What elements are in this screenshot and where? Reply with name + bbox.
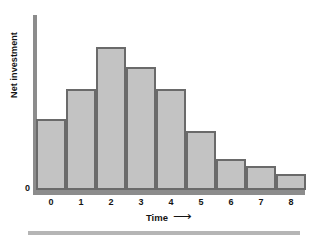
- bar-series-group: [36, 0, 306, 190]
- x-tick-label-3: 3: [126, 197, 156, 207]
- bar-2: [96, 47, 126, 190]
- bar-0: [36, 119, 66, 190]
- bar-5: [186, 131, 216, 190]
- x-tick-label-1: 1: [66, 197, 96, 207]
- x-tick-label-8: 8: [276, 197, 306, 207]
- bar-3: [126, 67, 156, 190]
- net-investment-bar-chart-figure: 012345678 0 Net investment Time⟶: [0, 0, 322, 240]
- x-tick-label-0: 0: [36, 197, 66, 207]
- x-tick-label-5: 5: [186, 197, 216, 207]
- x-axis-title: Time⟶: [33, 210, 305, 223]
- bar-7: [246, 166, 276, 190]
- bottom-divider-rule: [28, 231, 300, 235]
- bar-6: [216, 159, 246, 190]
- bar-4: [156, 89, 186, 190]
- y-axis-tick-label-zero: 0: [18, 183, 30, 193]
- x-tick-label-4: 4: [156, 197, 186, 207]
- right-arrow-icon: ⟶: [173, 210, 192, 223]
- x-tick-label-2: 2: [96, 197, 126, 207]
- x-axis-line: [33, 190, 305, 195]
- x-tick-label-7: 7: [246, 197, 276, 207]
- chart-plot-area: 012345678 0 Net investment Time⟶: [0, 0, 322, 240]
- y-axis-title: Net investment: [9, 15, 19, 115]
- bar-1: [66, 89, 96, 190]
- x-tick-label-6: 6: [216, 197, 246, 207]
- bar-8: [276, 174, 306, 190]
- x-axis-title-text: Time: [146, 212, 168, 223]
